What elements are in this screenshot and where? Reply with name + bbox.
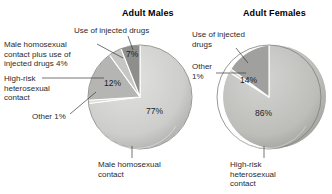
figure-root: Adult Males Adult Females Use of injecte… <box>0 0 332 194</box>
label-male-high-risk-heterosexual: High-risk heterosexual contact <box>4 74 70 103</box>
pie-adult-females <box>217 45 327 149</box>
value-male-injected-drugs-percent: 7% <box>126 49 138 59</box>
page-title-adult-females: Adult Females <box>243 8 306 18</box>
label-male-homosexual-contact: Male homosexual contact <box>98 160 161 179</box>
label-male-homosexual-plus-drugs: Male homosexual contact plus use of inje… <box>4 40 96 69</box>
value-female-injected-drugs-percent: 14% <box>240 75 257 85</box>
label-male-injected-drugs: Use of injected drugs <box>74 26 149 36</box>
label-female-high-risk-heterosexual: High-risk heterosexual contact <box>230 160 276 189</box>
value-male-main-percent: 77% <box>146 106 163 116</box>
page-title-adult-males: Adult Males <box>122 8 174 18</box>
label-female-injected-drugs: Use of injected drugs <box>192 30 252 49</box>
value-female-main-percent: 86% <box>255 108 272 118</box>
label-female-other: Other 1% <box>192 62 232 81</box>
label-male-other: Other 1% <box>32 112 66 122</box>
pie-adult-males <box>88 45 192 149</box>
value-male-high-risk-percent: 12% <box>104 78 121 88</box>
